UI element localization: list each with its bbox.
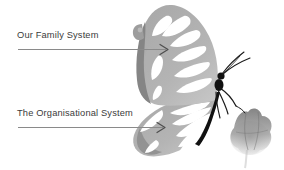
callout-organisational: [18, 123, 165, 133]
annotation-label-organisational: The Organisational System: [17, 108, 133, 118]
annotation-label-family: Our Family System: [17, 30, 99, 40]
illustration-canvas: Our Family System The Organisational Sys…: [0, 0, 284, 170]
callout-family: [18, 45, 168, 55]
callout-lines: [0, 0, 284, 170]
